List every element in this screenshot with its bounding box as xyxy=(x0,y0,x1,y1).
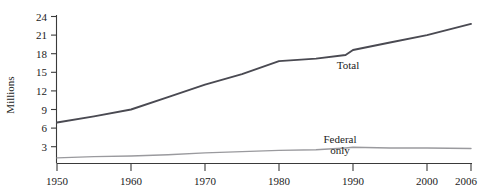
y-tick-label: 3 xyxy=(42,141,48,153)
chart-canvas: 24 21 18 15 12 9 6 3 Millions 1950 1960 … xyxy=(0,0,481,195)
y-tick-label: 18 xyxy=(36,48,48,60)
y-tick-label: 6 xyxy=(42,122,48,134)
y-tick-label: 24 xyxy=(36,11,48,23)
y-axis-tick-labels: 24 21 18 15 12 9 6 3 xyxy=(36,11,48,153)
x-tick-label: 1970 xyxy=(194,175,217,187)
series-line-federal-only xyxy=(57,147,471,158)
x-axis-ticks xyxy=(57,164,471,172)
series-line-total xyxy=(57,24,471,123)
x-tick-label: 1980 xyxy=(268,175,291,187)
x-tick-label: 2006 xyxy=(455,175,478,187)
total-label: Total xyxy=(337,59,359,71)
x-tick-label: 2000 xyxy=(416,175,439,187)
x-tick-label: 1950 xyxy=(46,175,69,187)
federal-only-label: Federal only xyxy=(324,133,357,156)
y-tick-label: 9 xyxy=(42,104,48,116)
x-tick-label: 1990 xyxy=(342,175,365,187)
y-tick-label: 15 xyxy=(36,66,48,78)
federal-only-label-line2: only xyxy=(330,144,350,156)
y-axis-ticks xyxy=(51,17,57,147)
y-tick-label: 21 xyxy=(36,29,47,41)
x-tick-label: 1960 xyxy=(120,175,143,187)
x-axis-tick-labels: 1950 1960 1970 1980 1990 2000 2006 xyxy=(46,175,478,187)
line-chart: 24 21 18 15 12 9 6 3 Millions 1950 1960 … xyxy=(0,0,481,195)
y-tick-label: 12 xyxy=(36,85,47,97)
y-axis-title: Millions xyxy=(4,76,16,113)
